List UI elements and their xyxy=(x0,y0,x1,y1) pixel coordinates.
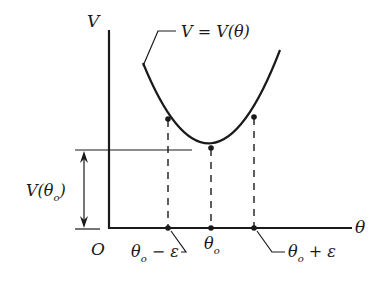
height-arrow xyxy=(80,151,88,228)
diagram-canvas: V θ O V = V(θ) V(θo) θo − ε θo θo + ε xyxy=(0,0,389,288)
potential-curve xyxy=(143,50,280,143)
point-right-axis xyxy=(251,225,257,231)
point-left-axis xyxy=(165,225,171,231)
origin-label: O xyxy=(91,239,105,259)
right-label-leader xyxy=(257,231,285,252)
point-minimum-curve xyxy=(208,145,214,151)
point-left-curve xyxy=(165,116,171,122)
curve-label: V = V(θ) xyxy=(181,22,250,41)
left-point-label: θo − ε xyxy=(131,242,179,264)
curve-label-leader xyxy=(143,31,176,66)
height-label: V(θo) xyxy=(26,181,66,203)
y-axis-label: V xyxy=(87,11,101,31)
right-point-label: θo + ε xyxy=(288,242,336,264)
minimum-point-label: θo xyxy=(204,234,220,256)
point-minimum-axis xyxy=(208,225,214,231)
point-right-curve xyxy=(251,114,257,120)
potential-well-diagram: V θ O V = V(θ) V(θo) θo − ε θo θo + ε xyxy=(0,0,389,288)
x-axis-label: θ xyxy=(355,217,365,237)
